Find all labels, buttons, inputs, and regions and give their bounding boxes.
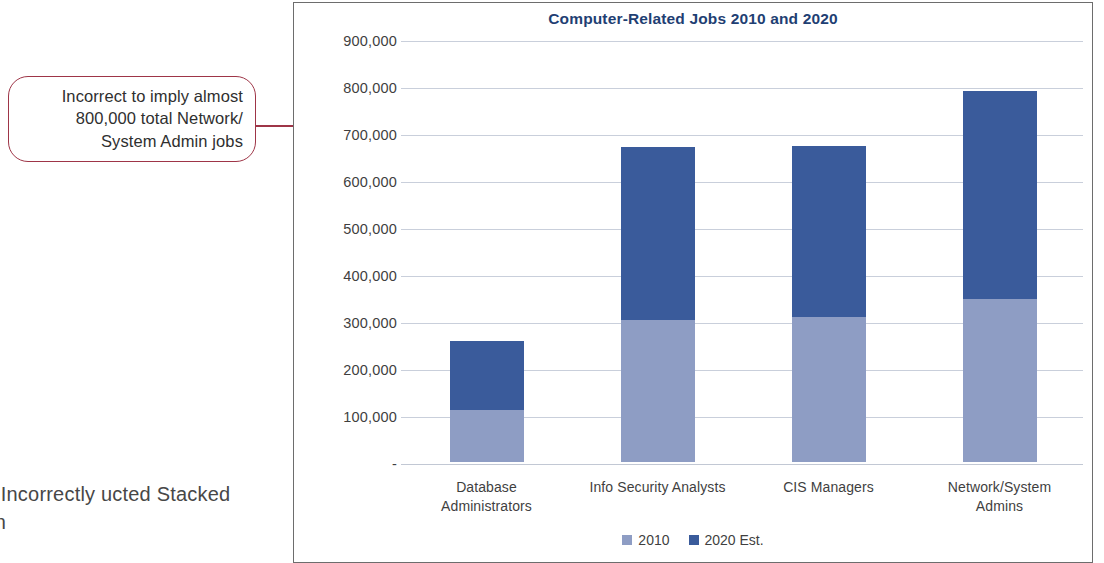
- y-axis-tick-label: -: [301, 456, 397, 472]
- bar-segment-2020-est[interactable]: [963, 91, 1037, 299]
- bar-group[interactable]: [792, 2, 866, 462]
- x-axis-category-line: Administrators: [401, 497, 572, 516]
- callout-line-2: 800,000 total Network/: [21, 107, 243, 129]
- callout-line-3: System Admin jobs: [21, 130, 243, 152]
- y-axis-tick-label: 900,000: [301, 33, 397, 49]
- y-axis-tick-label: 800,000: [301, 80, 397, 96]
- annotation-callout: Incorrect to imply almost 800,000 total …: [8, 76, 256, 162]
- bar-segment-2010[interactable]: [792, 317, 866, 462]
- x-axis-category-label: DatabaseAdministrators: [401, 478, 572, 516]
- x-axis-category-line: Database: [401, 478, 572, 497]
- y-axis-tick-label: 400,000: [301, 268, 397, 284]
- x-axis-category-label: CIS Managers: [743, 478, 914, 497]
- bar-group[interactable]: [450, 2, 524, 462]
- x-axis-category-line: CIS Managers: [743, 478, 914, 497]
- legend-entry[interactable]: 2020 Est.: [689, 532, 764, 548]
- bar-segment-2010[interactable]: [450, 410, 524, 462]
- legend-swatch-icon: [689, 535, 699, 545]
- y-axis: 900,000800,000700,000600,000500,000400,0…: [294, 3, 397, 562]
- bar-segment-2020-est[interactable]: [792, 146, 866, 318]
- bar-segment-2020-est[interactable]: [621, 147, 695, 320]
- bar-segment-2010[interactable]: [963, 299, 1037, 462]
- x-axis-category-line: Network/System: [914, 478, 1085, 497]
- bar-group[interactable]: [621, 2, 695, 462]
- y-axis-tick-label: 300,000: [301, 315, 397, 331]
- legend-entry[interactable]: 2010: [622, 532, 669, 548]
- y-axis-tick-label: 500,000: [301, 221, 397, 237]
- figure-caption: E 3.10 Incorrectly ucted Stacked Column: [0, 480, 292, 537]
- y-axis-tick-label: 600,000: [301, 174, 397, 190]
- bar-group[interactable]: [963, 2, 1037, 462]
- callout-line-1: Incorrect to imply almost: [21, 85, 243, 107]
- chart-container: Computer-Related Jobs 2010 and 2020 900,…: [293, 2, 1093, 563]
- y-axis-tick-label: 200,000: [301, 362, 397, 378]
- y-axis-tick-label: 100,000: [301, 409, 397, 425]
- x-axis-category-label: Info Security Analysts: [572, 478, 743, 497]
- y-axis-tick-label: 700,000: [301, 127, 397, 143]
- figure-caption-text: Incorrectly ucted Stacked Column: [0, 483, 230, 533]
- x-axis-category-line: Admins: [914, 497, 1085, 516]
- legend-label: 2010: [638, 532, 669, 548]
- bar-segment-2020-est[interactable]: [450, 341, 524, 411]
- chart-legend: 20102020 Est.: [294, 532, 1092, 548]
- gridline: [401, 464, 1083, 465]
- legend-label: 2020 Est.: [705, 532, 764, 548]
- bar-segment-2010[interactable]: [621, 320, 695, 462]
- x-axis-category-line: Info Security Analysts: [572, 478, 743, 497]
- x-axis-category-label: Network/SystemAdmins: [914, 478, 1085, 516]
- legend-swatch-icon: [622, 535, 632, 545]
- plot-area: DatabaseAdministratorsInfo Security Anal…: [401, 3, 1083, 562]
